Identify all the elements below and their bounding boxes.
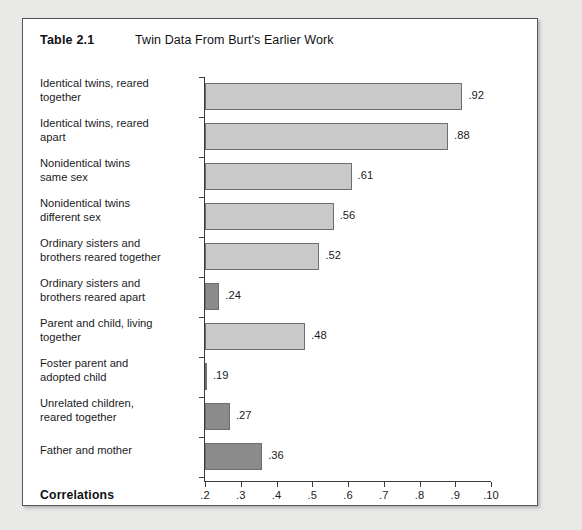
x-axis-tick-label: .10 xyxy=(483,489,499,501)
bar-value-label: .88 xyxy=(454,129,470,141)
bar xyxy=(205,363,207,390)
figure-header: Table 2.1 Twin Data From Burt's Earlier … xyxy=(23,33,537,55)
bar xyxy=(205,323,305,350)
x-axis-tick-label: .9 xyxy=(451,489,460,501)
x-axis-tick xyxy=(348,482,349,487)
x-axis-tick-label: .3 xyxy=(236,489,245,501)
x-axis-tick xyxy=(277,482,278,487)
category-label-line: Identical twins, reared xyxy=(40,77,190,91)
category-label: Parent and child, livingtogether xyxy=(40,317,190,344)
category-label-line: different sex xyxy=(40,211,190,225)
bar xyxy=(205,163,352,190)
bar-row: Nonidentical twinssame sex.61 xyxy=(23,157,538,197)
x-axis-tick xyxy=(420,482,421,487)
x-axis-tick-label: .7 xyxy=(379,489,388,501)
y-axis-tick xyxy=(199,77,205,78)
bar-row: Ordinary sisters andbrothers reared toge… xyxy=(23,237,538,277)
category-label-line: brothers reared apart xyxy=(40,291,190,305)
bar-row: Foster parent andadopted child.19 xyxy=(23,357,538,397)
category-label: Identical twins, rearedapart xyxy=(40,117,190,144)
bar-row: Ordinary sisters andbrothers reared apar… xyxy=(23,277,538,317)
bar-chart-plot-area: Identical twins, rearedtogether.92Identi… xyxy=(23,61,538,501)
category-label-line: Ordinary sisters and xyxy=(40,277,190,291)
x-axis-tick-label: .5 xyxy=(308,489,317,501)
x-axis-tick-label: .6 xyxy=(343,489,352,501)
x-axis-tick xyxy=(384,482,385,487)
category-label-line: Ordinary sisters and xyxy=(40,237,190,251)
category-label-line: Foster parent and xyxy=(40,357,190,371)
category-label-line: reared together xyxy=(40,411,190,425)
category-label: Ordinary sisters andbrothers reared toge… xyxy=(40,237,190,264)
category-label: Identical twins, rearedtogether xyxy=(40,77,190,104)
category-label-line: Father and mother xyxy=(40,444,190,458)
x-axis-tick-label: .8 xyxy=(415,489,424,501)
category-label: Nonidentical twinsdifferent sex xyxy=(40,197,190,224)
x-axis-tick-label: .4 xyxy=(272,489,281,501)
y-axis-tick xyxy=(199,477,205,478)
bar-row: Unrelated children,reared together.27 xyxy=(23,397,538,437)
table-number: Table 2.1 xyxy=(40,33,94,47)
category-label: Foster parent andadopted child xyxy=(40,357,190,384)
category-label-line: Identical twins, reared xyxy=(40,117,190,131)
bar-value-label: .92 xyxy=(468,89,484,101)
category-label-line: Nonidentical twins xyxy=(40,197,190,211)
bar xyxy=(205,83,462,110)
bar-value-label: .52 xyxy=(325,249,341,261)
figure-panel: Table 2.1 Twin Data From Burt's Earlier … xyxy=(22,18,538,506)
x-axis-tick-label: .2 xyxy=(200,489,209,501)
x-axis-caption: Correlations xyxy=(40,488,114,502)
category-label-line: apart xyxy=(40,131,190,145)
x-axis-tick xyxy=(241,482,242,487)
bar xyxy=(205,403,230,430)
bar-value-label: .56 xyxy=(340,209,356,221)
category-label-line: Nonidentical twins xyxy=(40,157,190,171)
category-label-line: together xyxy=(40,91,190,105)
bar-row: Father and mother.36 xyxy=(23,437,538,477)
bar xyxy=(205,443,262,470)
bar-value-label: .27 xyxy=(236,409,252,421)
category-label-line: adopted child xyxy=(40,371,190,385)
bar-value-label: .19 xyxy=(213,369,229,381)
bar xyxy=(205,243,319,270)
bar xyxy=(205,123,448,150)
category-label-line: together xyxy=(40,331,190,345)
x-axis-tick xyxy=(491,482,492,487)
figure-title: Twin Data From Burt's Earlier Work xyxy=(135,33,334,47)
bar-row: Parent and child, livingtogether.48 xyxy=(23,317,538,357)
bar-value-label: .48 xyxy=(311,329,327,341)
category-label: Father and mother xyxy=(40,444,190,458)
bar-row: Identical twins, rearedapart.88 xyxy=(23,117,538,157)
bar-value-label: .61 xyxy=(358,169,374,181)
bar-value-label: .36 xyxy=(268,449,284,461)
category-label-line: brothers reared together xyxy=(40,251,190,265)
x-axis-tick xyxy=(455,482,456,487)
x-axis-tick xyxy=(205,482,206,487)
category-label: Nonidentical twinssame sex xyxy=(40,157,190,184)
category-label: Ordinary sisters andbrothers reared apar… xyxy=(40,277,190,304)
category-label: Unrelated children,reared together xyxy=(40,397,190,424)
category-label-line: same sex xyxy=(40,171,190,185)
bar xyxy=(205,203,334,230)
category-label-line: Parent and child, living xyxy=(40,317,190,331)
bar-row: Identical twins, rearedtogether.92 xyxy=(23,77,538,117)
bar-row: Nonidentical twinsdifferent sex.56 xyxy=(23,197,538,237)
bar-value-label: .24 xyxy=(225,289,241,301)
bar xyxy=(205,283,219,310)
x-axis-tick xyxy=(312,482,313,487)
category-label-line: Unrelated children, xyxy=(40,397,190,411)
